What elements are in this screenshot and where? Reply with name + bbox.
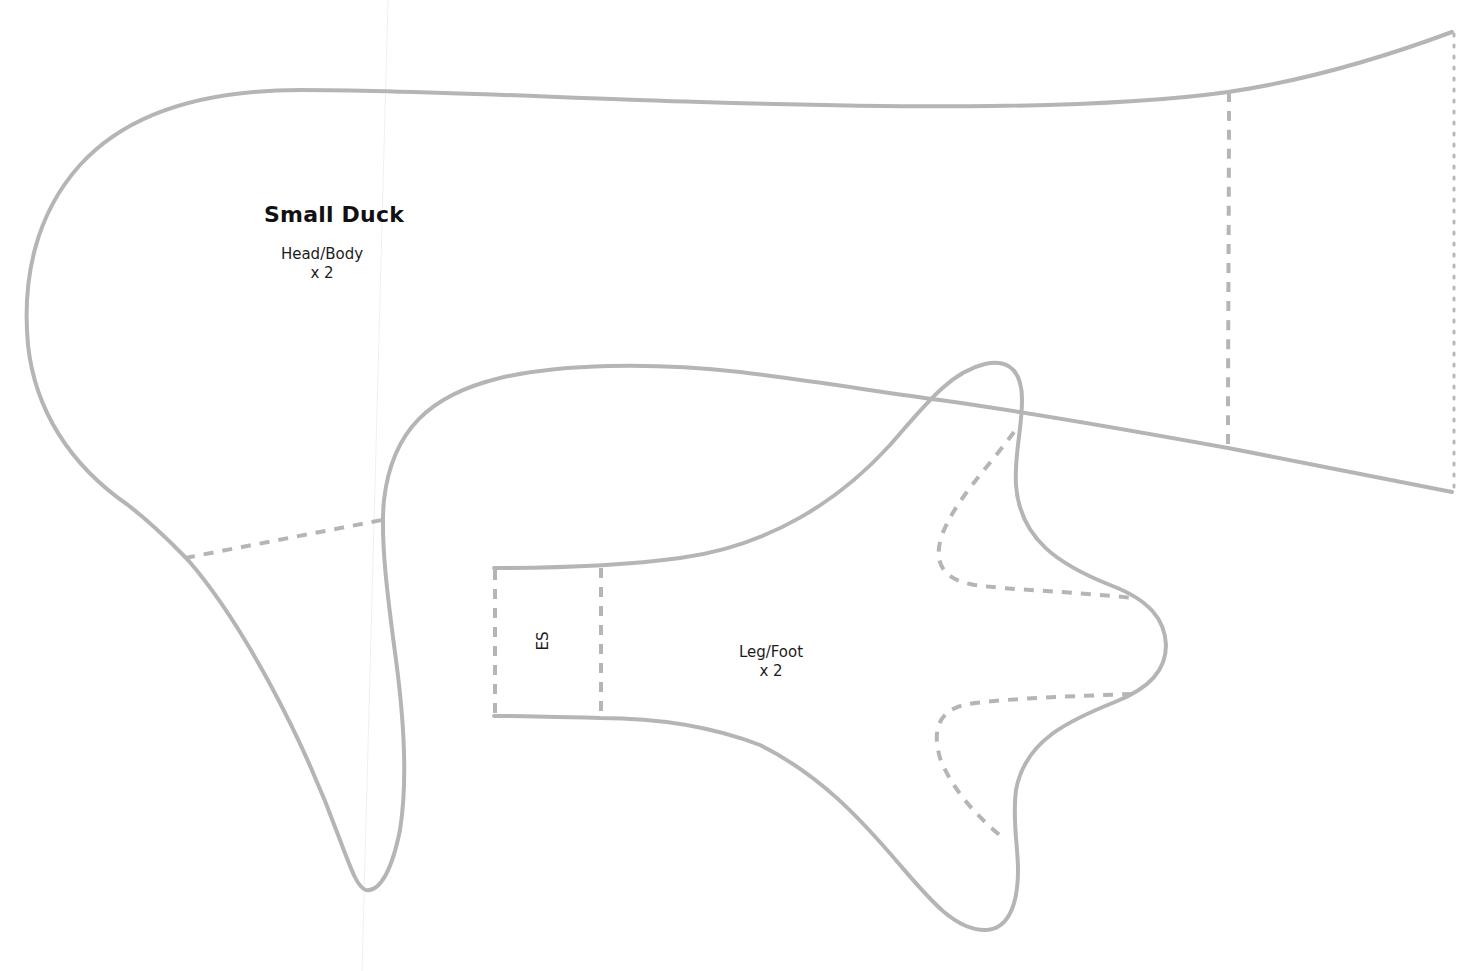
head-body-cut-line <box>27 32 1452 890</box>
leg-foot-label: Leg/Foot <box>716 645 826 661</box>
head-body-label: Head/Body <box>262 247 382 263</box>
head-body-count: x 2 <box>262 266 382 282</box>
leg-foot-piece <box>494 363 1166 930</box>
foot-lower-toe-line <box>937 694 1132 840</box>
leg-foot-count: x 2 <box>716 664 826 680</box>
scan-artifact-line <box>362 0 388 971</box>
head-body-tail-fold-line <box>1228 92 1229 448</box>
head-body-piece <box>27 32 1454 890</box>
end-seam-label: ES <box>536 624 552 658</box>
pattern-canvas <box>0 0 1458 971</box>
foot-upper-toe-line <box>939 432 1132 598</box>
pattern-title: Small Duck <box>258 203 410 226</box>
leg-foot-cut-line <box>494 363 1166 930</box>
head-body-stitch-line <box>185 520 382 558</box>
